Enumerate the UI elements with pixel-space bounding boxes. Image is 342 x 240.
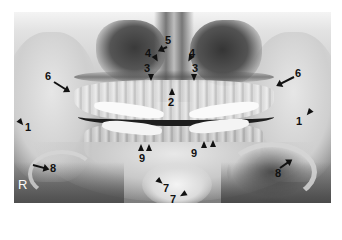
label-9-right: 9 xyxy=(191,148,197,159)
arrowhead-icon xyxy=(169,88,175,95)
arrowhead-icon xyxy=(146,144,152,151)
label-3-left: 3 xyxy=(144,63,150,74)
arrowhead-icon xyxy=(201,141,207,148)
arrowhead-icon xyxy=(210,140,216,147)
label-2: 2 xyxy=(168,97,174,108)
side-marker-r: R xyxy=(18,178,27,191)
label-1-left: 1 xyxy=(25,122,31,133)
right-hyoid-shadow xyxy=(227,142,317,202)
label-6-right: 6 xyxy=(295,68,301,79)
label-7-lower: 7 xyxy=(170,194,176,205)
arrowhead-icon xyxy=(191,74,197,81)
label-6-left: 6 xyxy=(45,71,51,82)
label-8-left: 8 xyxy=(50,163,56,174)
arrowhead-icon xyxy=(138,144,144,151)
left-hyoid-shadow xyxy=(28,150,96,198)
label-8-right: 8 xyxy=(275,168,281,179)
label-5: 5 xyxy=(165,35,171,46)
label-9-left: 9 xyxy=(139,153,145,164)
chin-symphysis xyxy=(142,162,212,203)
label-1-right: 1 xyxy=(296,116,302,127)
arrowhead-icon xyxy=(148,74,154,81)
label-4-left: 4 xyxy=(145,48,151,59)
label-7-upper: 7 xyxy=(163,183,169,194)
label-3-right: 3 xyxy=(192,63,198,74)
